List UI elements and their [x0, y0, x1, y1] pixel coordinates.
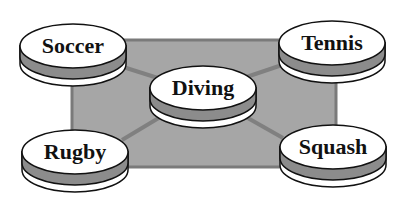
node-label-diving: Diving — [172, 75, 234, 100]
node-tennis: Tennis — [279, 21, 385, 83]
node-rugby: Rugby — [22, 130, 128, 192]
node-soccer: Soccer — [20, 24, 126, 86]
node-label-tennis: Tennis — [301, 30, 363, 55]
node-label-squash: Squash — [299, 134, 368, 159]
sports-diagram: Soccer Tennis Rugby Squash Diving — [0, 0, 402, 211]
node-squash: Squash — [280, 125, 386, 187]
node-diving-center: Diving — [150, 66, 256, 128]
node-label-soccer: Soccer — [42, 33, 105, 58]
node-label-rugby: Rugby — [44, 139, 106, 164]
